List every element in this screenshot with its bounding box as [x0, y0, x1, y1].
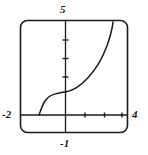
x-axis-min-label: -2 — [2, 109, 11, 120]
graph-figure: 5 -2 4 -1 — [0, 0, 148, 155]
x-axis-max-label: 4 — [132, 109, 138, 120]
y-axis-min-label: -1 — [60, 138, 69, 149]
y-axis-max-label: 5 — [60, 4, 66, 15]
plot-area — [0, 0, 148, 155]
curve-path — [39, 22, 113, 115]
